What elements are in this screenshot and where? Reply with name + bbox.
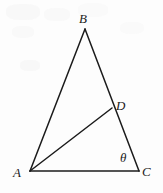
vertex-label-D: D: [116, 99, 125, 112]
geometry-figure: B D A C θ: [0, 0, 163, 193]
vertex-label-A: A: [13, 166, 21, 179]
angle-label-theta: θ: [120, 151, 126, 164]
side-BC-line: [85, 29, 139, 171]
vertex-label-B: B: [79, 12, 87, 25]
vertex-label-C: C: [142, 165, 151, 178]
triangle-diagram-svg: [0, 0, 163, 193]
